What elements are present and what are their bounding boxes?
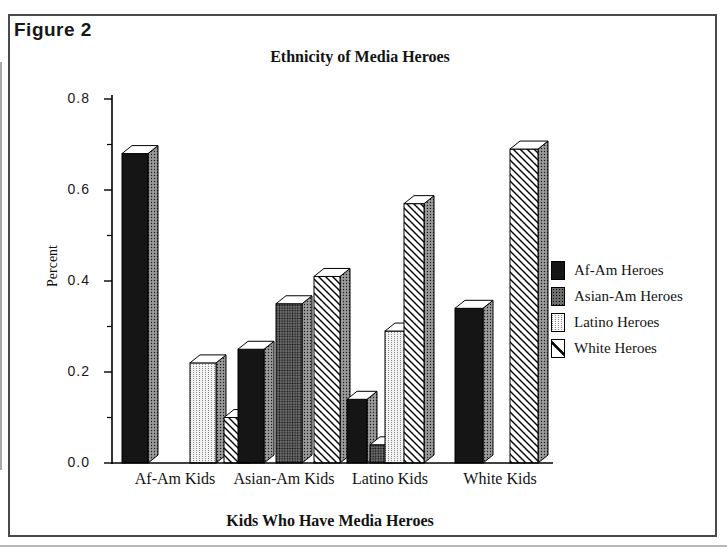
bar-af-am-heroes-asian-am-kids [238,341,274,463]
legend-swatch-dotted-columns [551,313,565,332]
x-axis-title: Kids Who Have Media Heroes [130,512,530,530]
legend-swatch-dark-dots [551,287,565,306]
bar-af-am-heroes-white-kids [455,300,493,463]
legend-label: Af-Am Heroes [574,262,664,279]
x-category-label-white-kids: White Kids [435,470,565,490]
bar-white-heroes-white-kids [510,141,548,463]
chart-legend: Af-Am Heroes Asian-Am Heroes Latino Hero… [551,260,716,364]
legend-item-white-heroes: White Heroes [551,338,716,358]
bar-white-heroes-latino-kids [404,196,434,463]
bar-asian-am-heroes-asian-am-kids [276,296,312,463]
legend-item-asian-am-heroes: Asian-Am Heroes [551,286,716,306]
legend-swatch-solid-black [551,261,565,280]
legend-swatch-diagonal-hatch [551,339,565,358]
bar-latino-heroes-af-am-kids [190,355,226,463]
scanned-figure-page: Figure 2 Ethnicity of Media Heroes Perce… [0,0,727,555]
legend-label: White Heroes [574,340,657,357]
legend-item-latino-heroes: Latino Heroes [551,312,716,332]
bar-white-heroes-asian-am-kids [314,268,350,463]
legend-label: Latino Heroes [574,314,659,331]
legend-label: Asian-Am Heroes [574,288,683,305]
bar-af-am-heroes-af-am-kids [122,146,158,463]
legend-item-af-am-heroes: Af-Am Heroes [551,260,716,280]
